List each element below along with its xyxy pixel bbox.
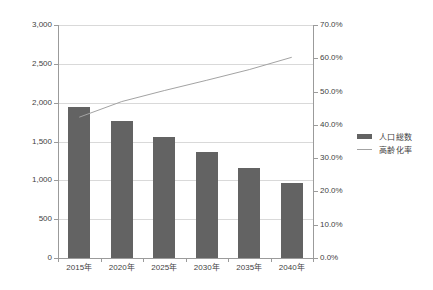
gridline xyxy=(58,219,313,220)
right-axis-tick-mark xyxy=(314,225,318,226)
x-axis-tick-label: 2025年 xyxy=(143,263,186,272)
bar xyxy=(281,183,303,258)
left-axis-tick-mark xyxy=(54,103,58,104)
gridline xyxy=(58,103,313,104)
line-swatch-icon xyxy=(357,147,372,152)
x-axis-tick-mark xyxy=(271,258,272,262)
bar xyxy=(238,168,260,258)
right-axis-tick-label: 40.0% xyxy=(320,121,366,129)
x-axis-tick-mark xyxy=(313,258,314,262)
gridline xyxy=(58,25,313,26)
right-axis-tick-mark xyxy=(314,58,318,59)
x-axis-tick-mark xyxy=(58,258,59,262)
x-axis-tick-label: 2020年 xyxy=(101,263,144,272)
legend-item-population: 人口総数 xyxy=(357,130,412,143)
right-axis-tick-label: 70.0% xyxy=(320,21,366,29)
plot-area xyxy=(58,25,313,258)
legend-item-label: 高齢化率 xyxy=(379,144,412,155)
x-axis-tick-mark xyxy=(186,258,187,262)
x-axis-tick-mark xyxy=(143,258,144,262)
left-axis-tick-label: 500 xyxy=(4,215,52,223)
left-axis-line xyxy=(58,25,59,259)
right-axis-tick-mark xyxy=(314,191,318,192)
bar xyxy=(111,121,133,258)
bar xyxy=(68,107,90,258)
x-axis-tick-mark xyxy=(228,258,229,262)
left-axis-tick-label: 2,500 xyxy=(4,60,52,68)
right-axis-tick-label: 0.0% xyxy=(320,254,366,262)
left-axis-tick-label: 1,000 xyxy=(4,176,52,184)
left-axis-tick-label: 0 xyxy=(4,254,52,262)
gridline xyxy=(58,64,313,65)
gridline xyxy=(58,180,313,181)
right-axis-tick-label: 60.0% xyxy=(320,54,366,62)
bar xyxy=(196,152,218,258)
left-axis-tick-label: 3,000 xyxy=(4,21,52,29)
left-axis-tick-mark xyxy=(54,219,58,220)
x-axis-tick-label: 2015年 xyxy=(58,263,101,272)
gridline xyxy=(58,142,313,143)
chart-legend: 人口総数 高齢化率 xyxy=(357,130,412,156)
x-axis-tick-label: 2030年 xyxy=(186,263,229,272)
right-axis-tick-label: 20.0% xyxy=(320,187,366,195)
legend-item-aging-rate: 高齢化率 xyxy=(357,143,412,156)
right-axis-tick-mark xyxy=(314,25,318,26)
left-axis-tick-mark xyxy=(54,64,58,65)
right-axis-tick-mark xyxy=(314,258,318,259)
right-axis-tick-mark xyxy=(314,92,318,93)
left-axis-tick-mark xyxy=(54,25,58,26)
x-axis-tick-mark xyxy=(101,258,102,262)
chart-container: 05001,0001,5002,0002,5003,000 0.0%10.0%2… xyxy=(0,0,433,290)
left-axis-tick-mark xyxy=(54,180,58,181)
right-axis-tick-label: 50.0% xyxy=(320,88,366,96)
right-axis-tick-label: 10.0% xyxy=(320,221,366,229)
left-axis-tick-label: 2,000 xyxy=(4,99,52,107)
legend-item-label: 人口総数 xyxy=(379,131,412,142)
bar xyxy=(153,137,175,258)
right-axis-tick-mark xyxy=(314,158,318,159)
left-axis-tick-label: 1,500 xyxy=(4,138,52,146)
left-axis-tick-mark xyxy=(54,142,58,143)
right-axis-tick-mark xyxy=(314,125,318,126)
bar-swatch-icon xyxy=(357,134,372,139)
x-axis-tick-label: 2035年 xyxy=(228,263,271,272)
x-axis-tick-label: 2040年 xyxy=(271,263,314,272)
